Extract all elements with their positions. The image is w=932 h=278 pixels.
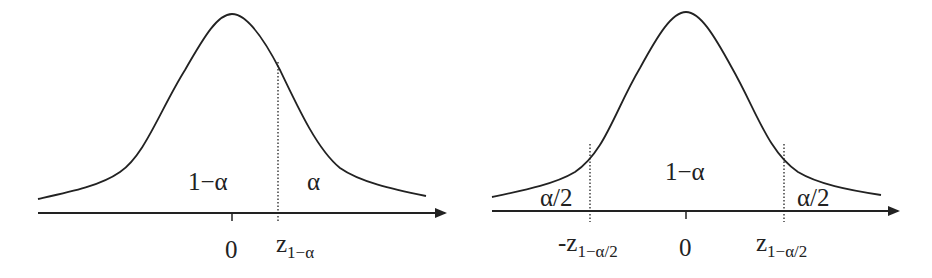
upper-critical-value-label: z1−α/2 — [756, 229, 807, 261]
one-sided-panel: 1−α α 0 z1−α — [38, 14, 445, 263]
zero-label: 0 — [225, 236, 238, 263]
center-area-label: 1−α — [665, 158, 705, 185]
critical-value-label: z1−α — [276, 230, 314, 262]
two-sided-panel: α/2 1−α α/2 0 -z1−α/2 z1−α/2 — [492, 12, 898, 261]
normal-distribution-diagrams: 1−α α 0 z1−α α/2 1−α α/2 0 -z1−α/2 z1−α/… — [0, 0, 932, 278]
density-curve — [38, 14, 426, 199]
right-tail-area-label: α/2 — [797, 184, 830, 211]
lower-critical-value-label: -z1−α/2 — [558, 229, 618, 261]
left-tail-area-label: α/2 — [540, 184, 573, 211]
tail-area-label: α — [307, 168, 320, 195]
zero-label: 0 — [679, 234, 692, 261]
center-area-label: 1−α — [188, 168, 228, 195]
